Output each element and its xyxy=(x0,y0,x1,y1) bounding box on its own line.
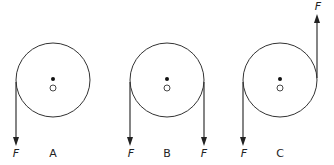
axle-icon xyxy=(164,85,170,91)
axle-icon xyxy=(50,85,56,91)
center-dot-icon xyxy=(278,77,282,81)
pulley-b: F B F xyxy=(127,43,208,160)
axle-icon xyxy=(277,85,283,91)
force-label: F xyxy=(315,0,322,13)
pulley-label: A xyxy=(49,147,57,160)
pulley-c: F C F xyxy=(240,0,322,160)
force-label: F xyxy=(241,147,248,160)
pulley-a: F A xyxy=(13,43,90,160)
arrowhead-icon xyxy=(314,14,320,23)
arrowhead-icon xyxy=(240,137,246,146)
pulley-label: B xyxy=(163,147,171,160)
center-dot-icon xyxy=(165,77,169,81)
force-label: F xyxy=(201,147,208,160)
pulley-label: C xyxy=(276,147,284,160)
pulley-diagram: F A F B F F C F xyxy=(0,0,334,165)
arrowhead-icon xyxy=(127,137,133,146)
force-label: F xyxy=(128,147,135,160)
arrowhead-icon xyxy=(13,137,19,146)
center-dot-icon xyxy=(51,77,55,81)
force-label: F xyxy=(13,147,20,160)
arrowhead-icon xyxy=(201,137,207,146)
